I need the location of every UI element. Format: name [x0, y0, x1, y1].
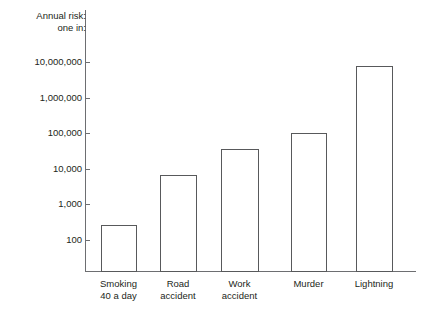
y-axis-tick-label-2: 10,000: [53, 164, 82, 174]
bars: [102, 67, 393, 272]
y-axis-title-line-2: one in:: [0, 22, 86, 34]
bar-3: [292, 134, 327, 272]
bar-0: [102, 226, 137, 272]
x-axis-tick-label-2-line-1: accident: [195, 290, 285, 302]
x-axis-tick-label-4: Lightning: [329, 278, 419, 290]
y-axis-tick-label-0: 100: [66, 235, 82, 245]
bar-1: [161, 176, 197, 272]
x-axis-tick-label-4-line-0: Lightning: [329, 278, 419, 290]
bar-chart-plot: [0, 0, 424, 315]
figure-container: Annual risk: one in: 1001,00010,000100,0…: [0, 0, 424, 315]
y-axis-title-line-1: Annual risk:: [0, 10, 86, 22]
bar-4: [357, 67, 393, 272]
y-axis-tick-label-4: 1,000,000: [40, 93, 82, 103]
y-axis-tick-label-1: 1,000: [58, 199, 82, 209]
y-axis-tick-label-3: 100,000: [48, 128, 82, 138]
bar-2: [222, 150, 259, 272]
y-axis-tick-label-5: 10,000,000: [34, 57, 82, 67]
